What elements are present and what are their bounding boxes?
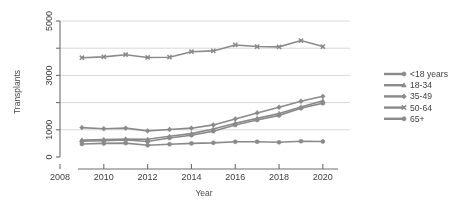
x-tick-label: 2008: [50, 172, 70, 182]
legend-label: <18 years: [410, 69, 448, 79]
series-point: [102, 126, 106, 131]
legend-item: 65+: [384, 114, 425, 124]
series-point: [299, 139, 303, 143]
chart-figure: 2008201020122014201620182020 01000300050…: [0, 0, 474, 207]
series-point: [168, 142, 172, 146]
legend-label: 35-49: [410, 91, 432, 101]
x-tick-label: 2010: [94, 172, 114, 182]
series-point: [211, 122, 215, 127]
legend-swatch-marker: [402, 94, 407, 99]
series-line: [82, 41, 323, 58]
x-tick-label: 2020: [313, 172, 333, 182]
legend-label: 18-34: [410, 80, 432, 90]
series-3: [80, 94, 325, 133]
series-point: [168, 136, 172, 140]
y-tick-labels: 0100030005000: [44, 11, 54, 160]
legend-label: 50-64: [410, 103, 432, 113]
series-point: [145, 128, 149, 133]
series-point: [189, 133, 193, 137]
series-line: [82, 103, 323, 141]
legend-item: 50-64: [384, 103, 432, 113]
series-point: [80, 125, 84, 130]
series-point: [321, 101, 325, 105]
line-chart: 2008201020122014201620182020 01000300050…: [0, 0, 474, 207]
x-tick-label: 2012: [138, 172, 158, 182]
legend-item: 18-34: [384, 80, 432, 90]
series-5: [80, 101, 325, 143]
x-tick-labels: 2008201020122014201620182020: [50, 172, 333, 182]
y-axis-ticks: [56, 21, 60, 157]
y-axis-title: Transplants: [12, 70, 22, 114]
series-point: [233, 140, 237, 144]
series-point: [233, 117, 237, 122]
y-tick-label: 5000: [44, 11, 54, 31]
series-point: [189, 141, 193, 145]
series-point: [211, 129, 215, 133]
series-point: [102, 139, 106, 143]
series-line: [82, 141, 323, 145]
gridlines: [60, 21, 350, 130]
y-tick-label: 1000: [44, 120, 54, 140]
series-point: [321, 140, 325, 144]
legend-item: 35-49: [384, 91, 432, 101]
legend-swatch-marker: [402, 72, 406, 76]
series-point: [277, 105, 281, 110]
series-point: [146, 143, 150, 147]
series-point: [277, 140, 281, 144]
x-axis-title: Year: [195, 188, 212, 198]
x-axis-ticks: [60, 164, 323, 169]
series-point: [146, 140, 150, 144]
x-tick-label: 2016: [225, 172, 245, 182]
y-tick-label: 0: [44, 154, 54, 159]
series-point: [255, 140, 259, 144]
x-tick-label: 2014: [181, 172, 201, 182]
axes: [60, 21, 338, 169]
series-point: [277, 113, 281, 117]
series-point: [167, 127, 171, 132]
series-point: [80, 139, 84, 143]
series-point: [211, 141, 215, 145]
series-point: [124, 138, 128, 142]
series-point: [321, 94, 325, 99]
legend-item: <18 years: [384, 69, 448, 79]
series-4: [80, 38, 325, 59]
series-point: [255, 118, 259, 122]
x-tick-label: 2018: [269, 172, 289, 182]
chart-legend: <18 years18-3435-4950-6465+: [384, 69, 448, 124]
legend-swatch-marker: [402, 117, 406, 121]
legend-label: 65+: [410, 114, 425, 124]
series-point: [255, 111, 259, 116]
series-point: [233, 123, 237, 127]
series-point: [299, 106, 303, 110]
series-layer: [80, 38, 325, 147]
series-line: [82, 101, 323, 140]
y-tick-label: 3000: [44, 65, 54, 85]
